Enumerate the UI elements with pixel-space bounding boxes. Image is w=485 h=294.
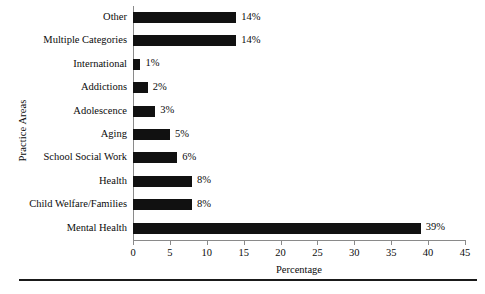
bar-row: 39%	[133, 217, 465, 240]
bar-value-label: 6%	[182, 150, 196, 164]
bar-value-label: 8%	[197, 173, 211, 187]
x-tick-mark	[244, 240, 245, 245]
category-label: Mental Health	[0, 222, 127, 234]
bar-row: 8%	[133, 193, 465, 216]
x-tick-label: 30	[334, 247, 374, 258]
x-tick-mark	[133, 240, 134, 245]
bar-chart-figure: Practice Areas OtherMultiple CategoriesI…	[0, 0, 485, 294]
bar-value-label: 5%	[175, 127, 189, 141]
category-label: Other	[0, 11, 127, 23]
bar-row: 1%	[133, 53, 465, 76]
bar	[133, 106, 155, 117]
x-axis-title: Percentage	[133, 264, 465, 275]
bar	[133, 59, 140, 70]
bar	[133, 223, 421, 234]
category-label: School Social Work	[0, 151, 127, 163]
bar-row: 2%	[133, 76, 465, 99]
category-label-group: OtherMultiple CategoriesInternationalAdd…	[0, 6, 133, 240]
category-label: Adolescence	[0, 105, 127, 117]
bar-value-label: 2%	[153, 80, 167, 94]
x-tick-mark	[207, 240, 208, 245]
x-tick-label: 25	[297, 247, 337, 258]
x-tick-label: 45	[445, 247, 485, 258]
bottom-divider-rule	[19, 279, 477, 281]
x-tick-mark	[170, 240, 171, 245]
category-label: Health	[0, 175, 127, 187]
bar-row: 14%	[133, 6, 465, 29]
x-tick-label: 0	[113, 247, 153, 258]
bar	[133, 199, 192, 210]
x-tick-label: 40	[408, 247, 448, 258]
bar-value-label: 39%	[426, 220, 445, 234]
category-label: International	[0, 58, 127, 70]
x-tick-mark	[465, 240, 466, 245]
bar-row: 6%	[133, 146, 465, 169]
category-label: Addictions	[0, 81, 127, 93]
bar-value-label: 14%	[241, 10, 260, 24]
bar	[133, 152, 177, 163]
bar-row: 14%	[133, 29, 465, 52]
bar-value-label: 3%	[160, 103, 174, 117]
x-tick-mark	[428, 240, 429, 245]
x-tick-label: 20	[261, 247, 301, 258]
bar-value-label: 14%	[241, 33, 260, 47]
plot-area: 14%14%1%2%3%5%6%8%8%39% 0510152025303540…	[133, 6, 465, 240]
bar-value-label: 8%	[197, 197, 211, 211]
x-tick-label: 5	[150, 247, 190, 258]
bar	[133, 35, 236, 46]
x-axis-line	[133, 240, 465, 241]
x-tick-label: 15	[224, 247, 264, 258]
x-tick-label: 10	[187, 247, 227, 258]
bar-value-label: 1%	[145, 56, 159, 70]
bar	[133, 82, 148, 93]
category-label: Multiple Categories	[0, 34, 127, 46]
bar-row: 8%	[133, 170, 465, 193]
bar	[133, 176, 192, 187]
x-tick-mark	[354, 240, 355, 245]
x-tick-mark	[281, 240, 282, 245]
bar	[133, 129, 170, 140]
bar-row: 3%	[133, 100, 465, 123]
category-label: Aging	[0, 128, 127, 140]
x-tick-mark	[317, 240, 318, 245]
category-label: Child Welfare/Families	[0, 198, 127, 210]
x-tick-label: 35	[371, 247, 411, 258]
bar	[133, 12, 236, 23]
bar-row: 5%	[133, 123, 465, 146]
x-tick-mark	[391, 240, 392, 245]
